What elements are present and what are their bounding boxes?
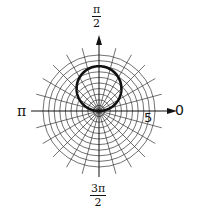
radial-tick-label: 5 [144,111,152,124]
label-3pi-over-2: 3π 2 [90,183,106,208]
label-pi: π [17,104,26,118]
label-zero: 0 [175,103,184,117]
label-pi-over-2-den: 2 [93,17,100,29]
grid-spoke [99,111,145,157]
pi-over-2-arrow-icon [96,35,102,45]
label-3pi-over-2-num: 3π [90,183,106,196]
grid-spoke [53,111,99,157]
label-pi-over-2-num: π [92,4,101,17]
label-3pi-over-2-den: 2 [95,196,102,208]
label-pi-over-2: π 2 [92,4,101,29]
